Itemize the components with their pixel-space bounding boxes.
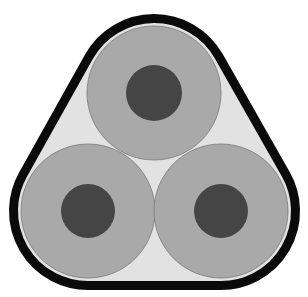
cable-cross-section-diagram xyxy=(0,0,308,297)
core-bottom-right xyxy=(154,144,288,278)
conductor-bottom-left xyxy=(61,184,115,238)
core-bottom-left xyxy=(21,144,155,278)
conductor-bottom-right xyxy=(194,184,248,238)
conductor-top xyxy=(126,65,182,121)
core-top xyxy=(87,26,221,160)
